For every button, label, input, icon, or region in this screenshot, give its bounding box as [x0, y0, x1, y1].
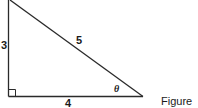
side-label-hypotenuse: 5	[76, 35, 82, 46]
side-label-horizontal: 4	[65, 98, 71, 108]
figure-caption: Figure	[161, 96, 192, 107]
right-angle-marker	[9, 90, 16, 97]
angle-label-theta: θ	[114, 84, 119, 94]
hypotenuse	[10, 0, 143, 97]
side-label-vertical: 3	[1, 40, 7, 51]
triangle-diagram	[0, 0, 198, 108]
